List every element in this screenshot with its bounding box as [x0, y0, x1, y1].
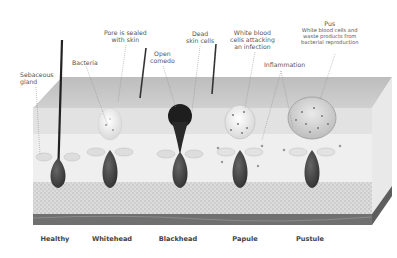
label-line: an infection: [230, 43, 275, 50]
label-white-blood-cells: White blood cells attacking an infection: [230, 29, 275, 50]
label-line: cells attacking: [230, 36, 275, 43]
label-inflammation: Inflammation: [264, 61, 305, 68]
stage-label-healthy: Healthy: [25, 235, 85, 243]
label-line: Dead: [186, 30, 214, 37]
label-line: Sebaceous: [20, 71, 54, 78]
stage-label-whitehead: Whitehead: [82, 235, 142, 243]
label-pore-sealed: Pore is sealed with skin: [104, 29, 147, 43]
label-sebaceous-gland: Sebaceous gland: [20, 71, 54, 85]
stage-label-pustule: Pustule: [280, 235, 340, 243]
label-line: comedo: [150, 57, 175, 64]
label-bacteria: Bacteria: [72, 59, 98, 66]
label-line: Pore is sealed: [104, 29, 147, 36]
label-line: Open: [150, 50, 175, 57]
label-line: with skin: [104, 36, 147, 43]
acne-diagram: Sebaceous gland Bacteria Pore is sealed …: [0, 0, 397, 258]
label-open-comedo: Open comedo: [150, 50, 175, 64]
label-dead-skin-cells: Dead skin cells: [186, 30, 214, 44]
stage-label-blackhead: Blackhead: [148, 235, 208, 243]
label-line: Pus: [301, 20, 358, 27]
label-line: gland: [20, 78, 54, 85]
label-pus: Pus White blood cells and waste products…: [301, 20, 358, 45]
stage-label-papule: Papule: [215, 235, 275, 243]
label-line: bacterial reproduction: [301, 39, 358, 45]
label-line: White blood: [230, 29, 275, 36]
label-line: skin cells: [186, 37, 214, 44]
